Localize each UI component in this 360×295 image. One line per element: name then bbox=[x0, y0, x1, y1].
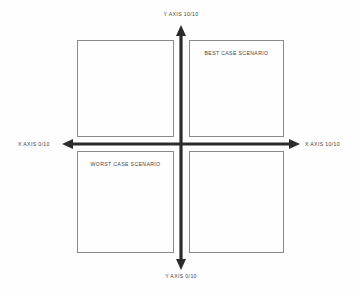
axes-group bbox=[0, 0, 360, 295]
y-axis-top-label: Y AXIS 10/10 bbox=[131, 11, 231, 17]
x-axis-right-arrowhead-icon bbox=[289, 139, 300, 149]
quadrant-label-worst-case: WORST CASE SCENARIO bbox=[77, 161, 174, 167]
x-axis-left-label: X AXIS 0/10 bbox=[18, 141, 50, 147]
quadrant-diagram-canvas: BEST CASE SCENARIO WORST CASE SCENARIO Y… bbox=[0, 0, 360, 295]
x-axis-right-label: X AXIS 10/10 bbox=[305, 141, 340, 147]
y-axis-bottom-arrowhead-icon bbox=[176, 259, 186, 270]
quadrant-label-best-case: BEST CASE SCENARIO bbox=[189, 50, 284, 56]
y-axis-bottom-label: Y AXIS 0/10 bbox=[131, 273, 231, 279]
x-axis-left-arrowhead-icon bbox=[62, 139, 73, 149]
y-axis-top-arrowhead-icon bbox=[176, 25, 186, 36]
